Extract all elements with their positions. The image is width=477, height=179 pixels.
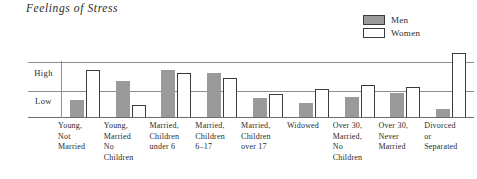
x-axis-label-line: Married: [378, 142, 430, 153]
bar-women: [406, 87, 420, 117]
bar-women: [132, 105, 146, 117]
x-axis-label: Over 30,Married,NoChildren: [333, 121, 385, 163]
bar-group: [199, 36, 245, 117]
x-axis-label-line: Over 30,: [378, 121, 430, 132]
x-axis-label-line: Never: [378, 132, 430, 143]
x-axis-label: Young,NotMarried: [58, 121, 110, 153]
x-axis-label-line: Over 30,: [333, 121, 385, 132]
x-axis-label-line: Married,: [150, 121, 202, 132]
x-axis-label-line: Married: [104, 132, 156, 143]
x-axis-label-line: Married,: [195, 121, 247, 132]
x-axis-label: Married,Childrenover 17: [241, 121, 293, 153]
stress-bar-chart: Feelings of Stress Men Women High Low Yo…: [0, 0, 477, 179]
bar-women: [223, 78, 237, 117]
bar-men: [207, 73, 221, 117]
x-axis-label-line: Separated: [424, 142, 476, 153]
bar-men: [161, 70, 175, 117]
legend-swatch-men: [363, 15, 385, 25]
x-axis-label-line: under 6: [150, 142, 202, 153]
bar-groups: [62, 36, 474, 117]
x-axis-label-line: 6–17: [195, 142, 247, 153]
legend-label-men: Men: [391, 15, 408, 25]
chart-legend: Men Women: [363, 15, 420, 38]
x-axis-label-line: Children: [195, 132, 247, 143]
x-axis-label-line: Children: [104, 153, 156, 164]
x-axis-label-line: Married,: [333, 132, 385, 143]
ytick-low: Low: [28, 96, 59, 106]
x-axis-label-line: Widowed: [287, 121, 339, 132]
x-axis-label: Over 30,NeverMarried: [378, 121, 430, 153]
bar-men: [390, 93, 404, 117]
x-axis-label: Widowed: [287, 121, 339, 132]
bar-men: [436, 109, 450, 117]
x-axis-label: Young,MarriedNoChildren: [104, 121, 156, 163]
x-axis-label-line: Children: [241, 132, 293, 143]
bar-men: [253, 98, 267, 117]
legend-item-men: Men: [363, 15, 420, 25]
bar-group: [382, 36, 428, 117]
bar-women: [361, 85, 375, 117]
bar-men: [345, 97, 359, 117]
bar-men: [116, 81, 130, 117]
bar-women: [452, 53, 466, 117]
x-axis-label-line: over 17: [241, 142, 293, 153]
bar-women: [86, 70, 100, 117]
bar-group: [154, 36, 200, 117]
bar-group: [108, 36, 154, 117]
bar-women: [177, 73, 191, 117]
bar-group: [291, 36, 337, 117]
chart-title: Feelings of Stress: [26, 2, 118, 14]
x-axis-label: Married,Childrenunder 6: [150, 121, 202, 153]
bar-group: [245, 36, 291, 117]
x-axis-label-line: Children: [150, 132, 202, 143]
bar-women: [269, 94, 283, 117]
x-axis-label: Married,Children6–17: [195, 121, 247, 153]
x-axis-labels: Young,NotMarriedYoung,MarriedNoChildrenM…: [62, 121, 474, 177]
x-axis-label-line: No: [104, 142, 156, 153]
bar-men: [299, 103, 313, 117]
x-axis-label-line: Married: [58, 142, 110, 153]
axis-baseline: [28, 117, 474, 118]
x-axis-label-line: No: [333, 142, 385, 153]
x-axis-label-line: Young,: [104, 121, 156, 132]
bar-women: [315, 89, 329, 117]
x-axis-label-line: or: [424, 132, 476, 143]
x-axis-label-line: Divorced: [424, 121, 476, 132]
bar-men: [70, 100, 84, 117]
x-axis-label-line: Young,: [58, 121, 110, 132]
x-axis-label-line: Not: [58, 132, 110, 143]
bar-group: [428, 36, 474, 117]
bar-group: [337, 36, 383, 117]
x-axis-label: DivorcedorSeparated: [424, 121, 476, 153]
x-axis-label-line: Children: [333, 153, 385, 164]
ytick-high: High: [28, 68, 59, 78]
bar-group: [62, 36, 108, 117]
x-axis-label-line: Married,: [241, 121, 293, 132]
plot-area: High Low: [28, 62, 474, 118]
